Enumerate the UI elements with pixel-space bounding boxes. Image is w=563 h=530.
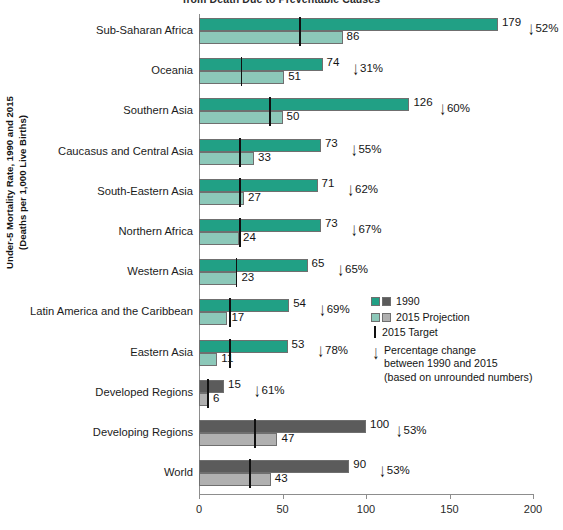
bar-group: Oceania7451↓31% (199, 58, 533, 84)
value-label-2015-projection: 51 (288, 70, 301, 82)
down-arrow-icon: ↓ (254, 384, 261, 399)
bar-1990[interactable] (199, 380, 224, 393)
percentage-change-label: ↓60% (439, 102, 470, 114)
x-tick-100 (366, 494, 367, 499)
category-label: Western Asia (127, 265, 193, 277)
chart-title: from Death Due to Preventable Causes (0, 0, 563, 5)
value-label-1990: 15 (228, 378, 241, 390)
legend-pct-line1: Percentage change (384, 344, 476, 356)
category-label: Oceania (151, 64, 193, 76)
legend-pct-line2: between 1990 and 2015 (384, 357, 498, 369)
bar-2015-projection[interactable] (199, 312, 227, 325)
x-tick-150 (450, 494, 451, 499)
y-axis-label: Under-5 Mortality Rate, 1990 and 2015 (D… (4, 83, 29, 283)
x-tick-label-100: 100 (357, 503, 375, 515)
target-line-icon (374, 326, 376, 338)
bar-1990[interactable] (199, 98, 409, 111)
down-arrow-icon: ↓ (351, 142, 358, 157)
category-label: South-Eastern Asia (97, 185, 193, 197)
value-label-2015-projection: 11 (221, 352, 233, 364)
target-line-2015 (249, 459, 251, 488)
value-label-1990: 53 (292, 338, 305, 350)
x-tick-200 (533, 494, 534, 499)
legend-item-2015-target: 2015 Target (371, 326, 532, 340)
down-arrow-icon: ↓ (371, 344, 381, 362)
under5-mortality-chart: from Death Due to Preventable Causes Und… (0, 0, 563, 530)
swatch-gray-light-icon (382, 313, 391, 322)
percentage-change-value: 31% (360, 62, 383, 74)
percentage-change-value: 69% (327, 303, 350, 315)
category-label: Sub-Saharan Africa (96, 24, 193, 36)
bar-2015-projection[interactable] (199, 433, 277, 446)
percentage-change-label: ↓52% (528, 22, 559, 34)
down-arrow-icon: ↓ (379, 464, 386, 479)
target-line-2015 (241, 57, 243, 86)
bar-2015-projection[interactable] (199, 31, 343, 44)
bar-group: Sub-Saharan Africa17986↓52% (199, 18, 533, 44)
value-label-2015-projection: 47 (281, 432, 294, 444)
bar-group: Caucasus and Central Asia7333↓55% (199, 139, 533, 165)
target-line-2015 (254, 419, 256, 448)
value-label-1990: 65 (312, 257, 325, 269)
x-tick-label-200: 200 (524, 503, 542, 515)
y-axis-label-line1: Under-5 Mortality Rate, 1990 and 2015 (4, 83, 17, 283)
bar-group: Western Asia6523↓65% (199, 259, 533, 285)
percentage-change-value: 65% (345, 263, 368, 275)
down-arrow-icon: ↓ (338, 263, 345, 278)
swatch-teal-light-icon (371, 313, 380, 322)
category-label: Latin America and the Caribbean (30, 305, 193, 317)
target-line-2015 (239, 178, 241, 207)
percentage-change-label: ↓31% (353, 62, 384, 74)
bar-group: Northern Africa7324↓67% (199, 219, 533, 245)
percentage-change-label: ↓61% (254, 384, 285, 396)
percentage-change-label: ↓62% (348, 183, 379, 195)
target-line-2015 (239, 138, 241, 167)
bar-1990[interactable] (199, 219, 321, 232)
percentage-change-value: 78% (325, 344, 348, 356)
value-label-1990: 73 (325, 137, 338, 149)
legend-item-percentage-change: ↓ Percentage change between 1990 and 201… (371, 344, 532, 385)
legend-label-2015-target: 2015 Target (382, 326, 438, 340)
bar-2015-projection[interactable] (199, 272, 237, 285)
bar-1990[interactable] (199, 58, 323, 71)
value-label-1990: 179 (502, 16, 521, 28)
target-line-2015 (207, 379, 209, 408)
bar-2015-projection[interactable] (199, 232, 239, 245)
value-label-1990: 73 (325, 217, 338, 229)
percentage-change-value: 62% (355, 183, 378, 195)
x-tick-50 (283, 494, 284, 499)
swatch-gray-dark-icon (382, 297, 391, 306)
bar-2015-projection[interactable] (199, 353, 217, 366)
percentage-change-value: 53% (387, 464, 410, 476)
value-label-1990: 100 (370, 418, 389, 430)
x-tick-label-50: 50 (276, 503, 288, 515)
value-label-1990: 54 (293, 297, 306, 309)
category-label: Eastern Asia (130, 346, 193, 358)
value-label-1990: 126 (413, 96, 432, 108)
percentage-change-label: ↓69% (319, 303, 350, 315)
target-line-2015 (299, 17, 301, 46)
category-label: Northern Africa (118, 225, 193, 237)
bar-group: Southern Asia12650↓60% (199, 98, 533, 124)
bar-2015-projection[interactable] (199, 473, 271, 486)
category-label: Developing Regions (93, 426, 193, 438)
legend: 1990 2015 Projection 2015 Target ↓ Perce… (371, 295, 532, 384)
bar-group: World9043↓53% (199, 460, 533, 486)
value-label-2015-projection: 50 (287, 110, 300, 122)
y-axis-label-line2: (Deaths per 1,000 Live Births) (16, 83, 29, 283)
category-label: Developed Regions (95, 386, 193, 398)
value-label-2015-projection: 43 (275, 472, 288, 484)
down-arrow-icon: ↓ (351, 223, 358, 238)
down-arrow-icon: ↓ (396, 424, 403, 439)
bar-2015-projection[interactable] (199, 152, 254, 165)
category-label: Caucasus and Central Asia (58, 145, 193, 157)
bar-2015-projection[interactable] (199, 192, 244, 205)
down-arrow-icon: ↓ (353, 62, 360, 77)
plot-area: 050100150200 Sub-Saharan Africa17986↓52%… (199, 14, 533, 494)
down-arrow-icon: ↓ (439, 102, 446, 117)
legend-item-1990: 1990 (371, 295, 532, 309)
bar-1990[interactable] (199, 340, 288, 353)
down-arrow-icon: ↓ (318, 343, 325, 358)
down-arrow-icon: ↓ (528, 22, 535, 37)
down-arrow-icon: ↓ (319, 303, 326, 318)
